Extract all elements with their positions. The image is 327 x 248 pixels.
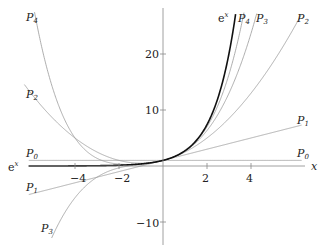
label-p0-left: P0	[25, 147, 38, 161]
label-p1-left: P1	[25, 181, 38, 195]
tick-x-2: 2	[202, 172, 209, 185]
label-ex-top: ex	[218, 11, 229, 25]
label-p2-top: P2	[296, 12, 309, 26]
label-p2-left: P2	[25, 88, 38, 102]
label-p4-left: P4	[25, 11, 38, 25]
taylor-plot: x −4 −2 2 4 20 10 −10 P4 P2 P0 ex P1 P3 …	[0, 0, 327, 248]
tick-x--2: −2	[114, 172, 130, 185]
label-p3-top: P3	[255, 12, 268, 26]
label-p4-top: P4	[237, 12, 250, 26]
tick-x--4: −4	[70, 172, 86, 185]
curve-p4	[35, 12, 244, 164]
label-p1-right: P1	[296, 114, 309, 128]
label-p0-right: P0	[296, 147, 309, 161]
curve-ex	[29, 14, 236, 166]
x-axis-label: x	[311, 160, 318, 173]
tick-y--10: −10	[136, 217, 159, 230]
tick-y-20: 20	[145, 48, 159, 61]
label-ex-left: ex	[8, 160, 19, 174]
label-p3-left: P3	[40, 222, 53, 236]
tick-x-4: 4	[246, 172, 253, 185]
tick-y-10: 10	[145, 104, 159, 117]
